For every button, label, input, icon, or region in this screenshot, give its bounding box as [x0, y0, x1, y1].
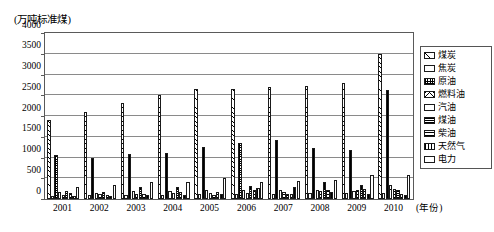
x-axis-tick-label: 2008 — [302, 202, 339, 214]
legend-item[interactable]: 煤油 — [424, 114, 489, 127]
legend-item-label: 原油 — [438, 76, 456, 87]
bar — [378, 54, 381, 199]
legend-item-label: 煤炭 — [438, 50, 456, 61]
bar — [334, 180, 337, 199]
bar — [386, 90, 389, 199]
bar-group — [155, 33, 192, 199]
bar — [297, 181, 300, 199]
y-axis-tick-labels: 05001000150020002500300035004000 — [0, 32, 41, 200]
bar — [113, 185, 116, 199]
legend-swatch-icon — [424, 78, 435, 85]
legend-item[interactable]: 柴油 — [424, 127, 489, 140]
bar — [407, 175, 410, 199]
bar-group — [119, 33, 156, 199]
x-axis-tick-label: 2007 — [265, 202, 302, 214]
legend-item-label: 柴油 — [438, 128, 456, 139]
bar — [121, 103, 124, 199]
bar — [84, 112, 87, 199]
legend-item[interactable]: 电力 — [424, 153, 489, 166]
bar — [268, 87, 271, 199]
legend-item[interactable]: 焦炭 — [424, 62, 489, 75]
legend-swatch-icon — [424, 117, 435, 124]
legend-swatch-icon — [424, 52, 435, 59]
bar-group — [266, 33, 303, 199]
plot-area — [44, 32, 414, 200]
legend-swatch-icon — [424, 65, 435, 72]
y-axis-tick-label: 2500 — [1, 82, 41, 92]
legend-swatch-icon — [424, 104, 435, 111]
bar — [305, 86, 308, 199]
bar — [47, 120, 50, 199]
legend-swatch-icon — [424, 130, 435, 137]
bar-group — [45, 33, 82, 199]
x-axis-tick-label: 2010 — [375, 202, 412, 214]
bar — [76, 187, 79, 199]
chart-container: (万吨标准煤) 05001000150020002500300035004000… — [0, 0, 494, 232]
y-axis-tick-label: 0 — [1, 186, 41, 196]
y-axis-tick-label: 500 — [1, 165, 41, 175]
legend-item-label: 焦炭 — [438, 63, 456, 74]
legend-item-label: 燃料油 — [438, 89, 465, 100]
y-axis-tick-label: 3500 — [1, 41, 41, 51]
legend-item[interactable]: 煤炭 — [424, 49, 489, 62]
legend-item[interactable]: 汽油 — [424, 101, 489, 114]
legend-item-label: 电力 — [438, 154, 456, 165]
bar-group — [339, 33, 376, 199]
bar-group — [229, 33, 266, 199]
legend-item-label: 天然气 — [438, 141, 465, 152]
bar — [223, 178, 226, 199]
legend-item-label: 煤油 — [438, 115, 456, 126]
legend-item[interactable]: 燃料油 — [424, 88, 489, 101]
legend-item[interactable]: 天然气 — [424, 140, 489, 153]
x-axis-tick-label: 2004 — [154, 202, 191, 214]
legend-item-label: 汽油 — [438, 102, 456, 113]
x-axis-tick-label: 2001 — [44, 202, 81, 214]
x-axis-unit-label: (年份) — [416, 202, 442, 214]
y-axis-tick-label: 3000 — [1, 62, 41, 72]
y-axis-tick-label: 4000 — [1, 20, 41, 30]
bar — [370, 175, 373, 199]
bar-group — [303, 33, 340, 199]
x-axis-tick-label: 2002 — [81, 202, 118, 214]
bar — [231, 89, 234, 199]
y-axis-tick-label: 1500 — [1, 124, 41, 134]
legend-swatch-icon — [424, 156, 435, 163]
legend-item[interactable]: 原油 — [424, 75, 489, 88]
y-axis-tick-label: 2000 — [1, 103, 41, 113]
x-axis-tick-label: 2009 — [338, 202, 375, 214]
legend-swatch-icon — [424, 143, 435, 150]
bar — [194, 89, 197, 199]
bar-group — [376, 33, 413, 199]
x-axis-tick-labels: 2001200220032004200520062007200820092010 — [44, 202, 414, 218]
bar — [260, 182, 263, 199]
bar — [158, 95, 161, 199]
bar-group — [192, 33, 229, 199]
x-axis-tick-label: 2005 — [191, 202, 228, 214]
legend-swatch-icon — [424, 91, 435, 98]
x-axis-tick-label: 2003 — [118, 202, 155, 214]
bar — [150, 182, 153, 199]
bar — [342, 83, 345, 199]
x-axis-tick-label: 2006 — [228, 202, 265, 214]
chart-legend: 煤炭焦炭原油燃料油汽油煤油柴油天然气电力 — [420, 46, 492, 169]
bar — [186, 182, 189, 199]
bar-group — [82, 33, 119, 199]
y-axis-tick-label: 1000 — [1, 145, 41, 155]
